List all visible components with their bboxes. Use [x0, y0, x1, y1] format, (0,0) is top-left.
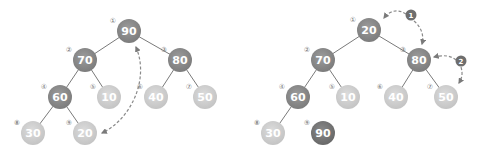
node-value: 60 — [290, 91, 306, 104]
tree-nodes: 90①70②80③60④10⑤40⑥50⑦30⑧20⑨20①70②80③60④1… — [14, 16, 458, 145]
step-badge: 2 — [456, 56, 467, 67]
node-index-label: ② — [66, 46, 72, 54]
heap-node: 90① — [110, 17, 141, 43]
node-value: 30 — [25, 127, 41, 140]
node-index-label: ① — [350, 16, 356, 24]
step1-arrow-to-node3 — [414, 21, 423, 44]
node-index-label: ⑦ — [186, 83, 192, 91]
node-value: 60 — [52, 91, 68, 104]
node-index-label: ⑤ — [329, 83, 335, 91]
node-index-label: ④ — [41, 83, 47, 91]
node-index-label: ⑥ — [377, 83, 383, 91]
node-value: 70 — [77, 54, 93, 67]
step1-arrow-to-root — [384, 11, 406, 18]
node-index-label: ⑥ — [137, 83, 143, 91]
heap-sort-diagram: 90①70②80③60④10⑤40⑥50⑦30⑧20⑨20①70②80③60④1… — [0, 0, 483, 158]
node-value: 10 — [340, 91, 356, 104]
node-value: 40 — [148, 91, 164, 104]
heap-node: 70② — [304, 46, 335, 72]
node-value: 70 — [315, 54, 331, 67]
node-index-label: ⑦ — [427, 83, 433, 91]
heap-node: 70② — [66, 46, 97, 72]
heap-node: 20① — [350, 16, 381, 42]
heap-node: 40⑥ — [137, 83, 168, 109]
step2-arrow-to-node7 — [459, 67, 462, 83]
heap-node: 40⑥ — [377, 83, 408, 109]
tree-edges — [33, 30, 446, 133]
node-value: 20 — [77, 127, 93, 140]
node-index-label: ⑨ — [304, 119, 310, 127]
node-value: 40 — [388, 91, 404, 104]
heap-node: 50⑦ — [186, 83, 217, 109]
heap-node: 20⑨ — [66, 119, 97, 145]
node-value: 80 — [172, 54, 188, 67]
heap-node: 80③ — [161, 46, 192, 72]
node-index-label: ④ — [279, 83, 285, 91]
node-index-label: ⑤ — [90, 83, 96, 91]
swap-arrows — [102, 11, 462, 133]
node-index-label: ① — [110, 17, 116, 25]
node-value: 50 — [438, 91, 454, 104]
node-index-label: ② — [304, 46, 310, 54]
node-index-label: ③ — [400, 46, 406, 54]
node-index-label: ⑧ — [254, 119, 260, 127]
node-index-label: ③ — [161, 46, 167, 54]
heap-node: 10⑤ — [329, 83, 360, 109]
diagram-canvas: 90①70②80③60④10⑤40⑥50⑦30⑧20⑨20①70②80③60④1… — [0, 0, 483, 158]
node-value: 80 — [411, 54, 427, 67]
heap-node: 10⑤ — [90, 83, 121, 109]
badge-label: 1 — [409, 12, 414, 20]
node-value: 10 — [101, 91, 117, 104]
heap-node: 90⑨ — [304, 119, 335, 145]
node-value: 90 — [315, 127, 331, 140]
node-value: 30 — [265, 127, 281, 140]
node-value: 50 — [197, 91, 213, 104]
node-value: 90 — [121, 25, 137, 38]
step2-arrow-to-node3 — [434, 56, 456, 60]
node-index-label: ⑧ — [14, 119, 20, 127]
heap-node: 80③ — [400, 46, 431, 72]
node-value: 20 — [361, 24, 377, 37]
node-index-label: ⑨ — [66, 119, 72, 127]
badge-label: 2 — [459, 58, 464, 66]
heap-node: 50⑦ — [427, 83, 458, 109]
step-badge: 1 — [406, 10, 417, 21]
